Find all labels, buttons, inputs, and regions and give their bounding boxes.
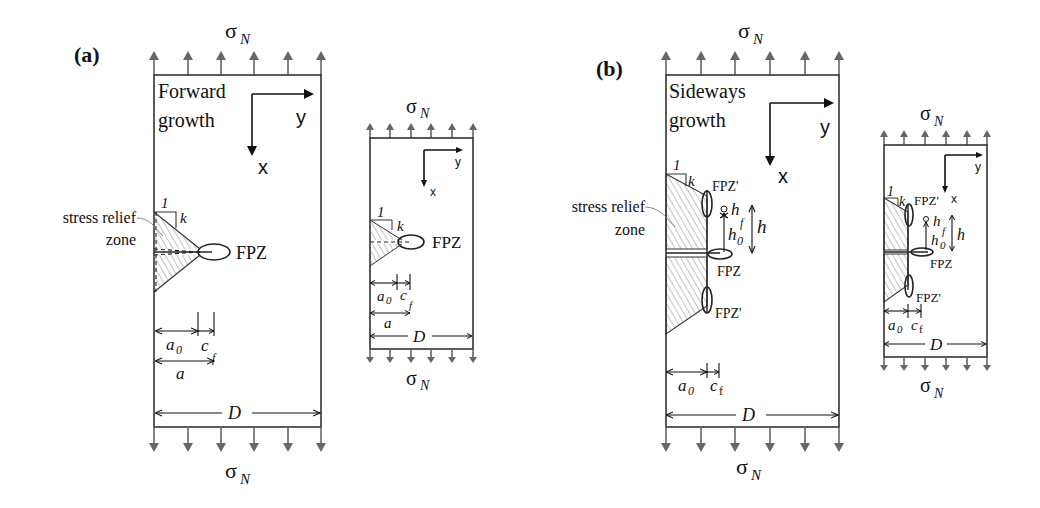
svg-text:0: 0 xyxy=(940,239,946,251)
svg-text:0: 0 xyxy=(897,323,903,335)
svg-text:1: 1 xyxy=(161,195,169,211)
svg-text:D: D xyxy=(227,403,241,423)
svg-text:k: k xyxy=(397,218,404,234)
svg-text:N: N xyxy=(750,467,762,483)
panel-a: (a) σ N Forward growth y x xyxy=(63,18,477,487)
svg-text:FPZ': FPZ' xyxy=(914,193,939,208)
svg-text:h: h xyxy=(731,200,740,219)
svg-text:k: k xyxy=(688,173,695,189)
svg-text:N: N xyxy=(239,31,251,47)
svg-text:f: f xyxy=(740,216,745,230)
tensile-load-arrows-bottom-a xyxy=(149,427,326,452)
fpz-ellipse-b xyxy=(708,249,732,259)
svg-text:0: 0 xyxy=(737,234,743,248)
growth-text-b-line1: Sideways xyxy=(669,80,746,103)
svg-text:f: f xyxy=(409,299,414,311)
svg-text:1: 1 xyxy=(377,204,385,220)
svg-text:D: D xyxy=(929,335,943,354)
relief-label-a-line2: zone xyxy=(106,231,136,248)
svg-text:f: f xyxy=(942,225,947,237)
axis-x-label-a: x xyxy=(258,156,268,178)
axis-y-label-b: y xyxy=(820,116,830,138)
svg-text:c: c xyxy=(400,287,407,303)
svg-text:h: h xyxy=(957,226,965,243)
svg-text:a: a xyxy=(166,335,175,354)
growth-text-a-line1: Forward xyxy=(158,80,226,102)
svg-text:f: f xyxy=(919,323,923,335)
svg-text:0: 0 xyxy=(688,384,694,398)
svg-text:D: D xyxy=(412,327,426,346)
stress-label-top-a: σ N xyxy=(225,18,251,47)
svg-text:N: N xyxy=(419,378,430,393)
svg-text:k: k xyxy=(899,194,906,209)
tensile-load-arrows-top-b xyxy=(661,51,844,75)
svg-text:a: a xyxy=(176,364,185,383)
svg-text:h: h xyxy=(728,225,737,244)
tensile-load-arrows-bottom-b xyxy=(661,427,844,452)
svg-text:0: 0 xyxy=(386,294,392,306)
svg-text:f: f xyxy=(719,384,723,398)
tensile-load-arrows-top-a xyxy=(149,51,326,75)
svg-text:FPZ: FPZ xyxy=(930,256,952,271)
fpz-side-label-top-b: FPZ' xyxy=(712,179,739,194)
svg-text:1: 1 xyxy=(887,184,894,199)
svg-text:0: 0 xyxy=(176,343,182,357)
panel-label-a: (a) xyxy=(74,42,100,67)
scaled-specimen-a: σ N y x 1 k xyxy=(366,95,477,393)
svg-text:σ: σ xyxy=(406,367,417,389)
svg-text:1: 1 xyxy=(673,157,681,173)
svg-text:x: x xyxy=(430,185,436,199)
relief-label-b-line1: stress relief xyxy=(572,198,646,215)
panel-b: (b) σ N Sideways growth y x xyxy=(572,18,991,483)
svg-text:a: a xyxy=(377,288,385,304)
growth-text-a-line2: growth xyxy=(158,109,215,132)
svg-text:D: D xyxy=(741,405,755,425)
svg-text:y: y xyxy=(975,160,981,174)
svg-text:x: x xyxy=(951,192,957,206)
svg-text:a: a xyxy=(384,315,392,331)
coordinate-axes-b: y x xyxy=(765,98,834,187)
svg-text:c: c xyxy=(911,317,918,333)
stress-label-bottom-b: σ N xyxy=(736,454,762,483)
svg-text:f: f xyxy=(212,351,217,365)
svg-text:N: N xyxy=(239,471,251,487)
growth-text-b-line2: growth xyxy=(669,109,726,132)
svg-text:c: c xyxy=(710,376,718,395)
svg-text:σ: σ xyxy=(736,454,748,479)
svg-text:N: N xyxy=(933,114,944,129)
svg-text:N: N xyxy=(752,31,764,47)
svg-text:k: k xyxy=(180,210,187,226)
svg-text:σ: σ xyxy=(225,18,237,43)
fpz-label-a: FPZ xyxy=(236,243,267,263)
dimension-a0-cf-a: a 0 c f a D xyxy=(156,312,320,423)
relief-label-a-line1: stress relief xyxy=(63,209,137,226)
svg-text:σ: σ xyxy=(920,374,931,396)
svg-text:σ: σ xyxy=(406,95,417,117)
svg-text:a: a xyxy=(888,317,896,333)
relief-label-b-line2: zone xyxy=(615,221,645,238)
stress-relief-zone-a: 1 k xyxy=(154,195,212,292)
panel-label-b: (b) xyxy=(596,56,623,81)
axis-y-label-a: y xyxy=(296,106,306,128)
svg-text:σ: σ xyxy=(225,458,237,483)
svg-text:h: h xyxy=(931,232,939,248)
dimension-h-hf-h0: h f h 0 h xyxy=(720,200,767,253)
crack-growth-diagram: (a) σ N Forward growth y x xyxy=(0,0,1040,508)
fpz-label-b: FPZ xyxy=(717,264,741,279)
dimension-a0-cf-b: a 0 c f D xyxy=(667,363,838,425)
svg-text:σ: σ xyxy=(920,102,931,124)
axis-x-label-b: x xyxy=(778,165,788,187)
svg-text:FPZ: FPZ xyxy=(432,233,461,252)
svg-text:σ: σ xyxy=(738,18,750,43)
svg-text:y: y xyxy=(455,155,461,169)
fpz-side-label-bottom-b: FPZ' xyxy=(715,306,742,321)
svg-text:c: c xyxy=(201,336,209,355)
coordinate-axes-a: y x xyxy=(247,89,314,178)
svg-text:h: h xyxy=(933,213,941,229)
stress-label-top-b: σ N xyxy=(738,18,764,47)
svg-text:a: a xyxy=(678,376,687,395)
svg-text:N: N xyxy=(933,386,944,401)
svg-text:N: N xyxy=(419,106,430,121)
scaled-specimen-b: σ N y x 1 k xyxy=(880,102,991,401)
svg-text:h: h xyxy=(757,216,767,237)
